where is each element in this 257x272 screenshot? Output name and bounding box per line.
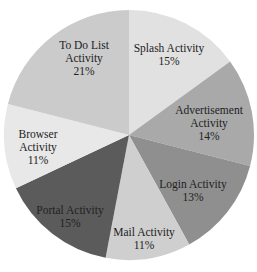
slice-label-login-activity: Login Activity13% xyxy=(159,178,226,204)
slice-label-advertisement-activity: AdvertisementActivity14% xyxy=(175,104,243,143)
slice-label-to-do-list-activity: To Do ListActivity21% xyxy=(59,39,109,78)
slice-label-browser-activity: BrowserActivity11% xyxy=(19,128,58,167)
slice-percent: 13% xyxy=(159,191,226,204)
slice-name: To Do List xyxy=(59,39,109,52)
slice-percent: 11% xyxy=(19,154,58,167)
slice-label-mail-activity: Mail Activity11% xyxy=(113,226,175,252)
slice-name: Browser xyxy=(19,128,58,141)
slice-name: Activity xyxy=(19,141,58,154)
slice-name: Mail Activity xyxy=(113,226,175,239)
slice-percent: 15% xyxy=(36,217,103,230)
slice-name: Activity xyxy=(175,117,243,130)
slice-percent: 11% xyxy=(113,239,175,252)
slice-percent: 14% xyxy=(175,130,243,143)
slice-name: Splash Activity xyxy=(134,42,205,55)
slice-name: Portal Activity xyxy=(36,204,103,217)
slice-percent: 15% xyxy=(134,55,205,68)
slice-name: Advertisement xyxy=(175,104,243,117)
slice-percent: 21% xyxy=(59,65,109,78)
slice-name: Activity xyxy=(59,52,109,65)
slice-label-splash-activity: Splash Activity15% xyxy=(134,42,205,68)
slice-name: Login Activity xyxy=(159,178,226,191)
slice-label-portal-activity: Portal Activity15% xyxy=(36,204,103,230)
